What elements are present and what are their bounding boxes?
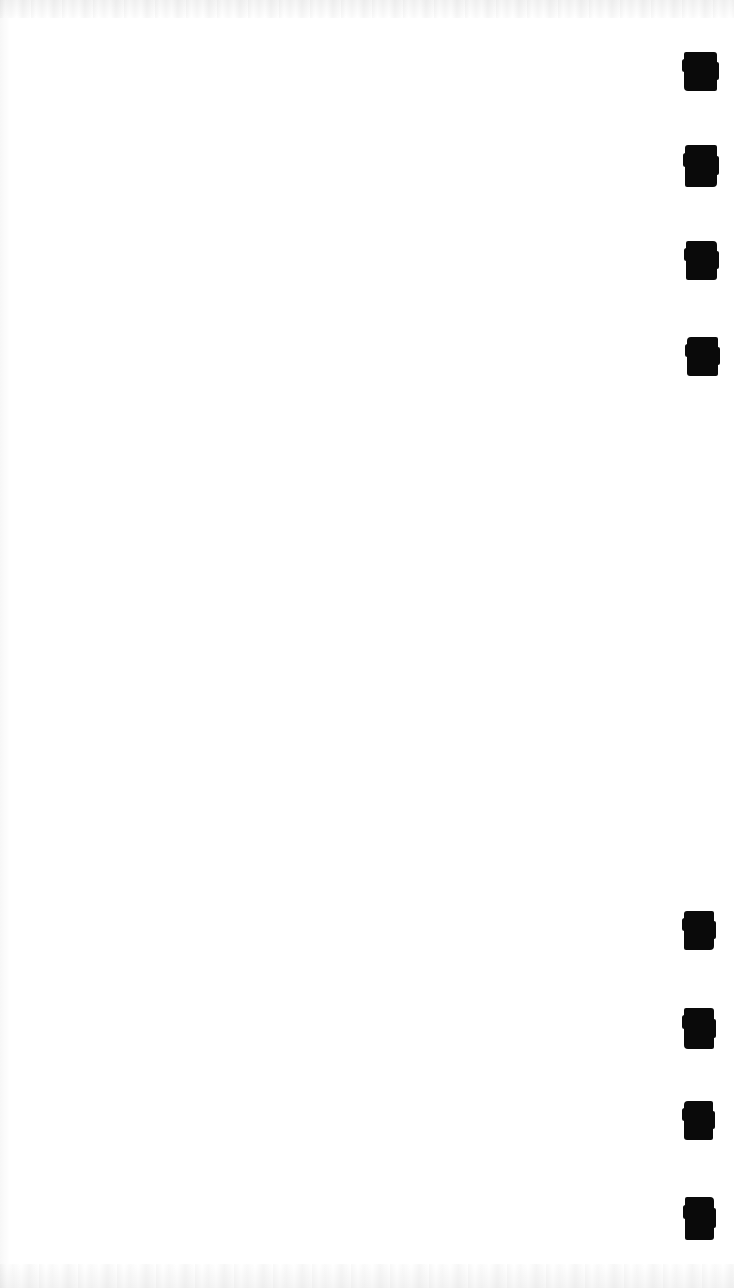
- scanned-page: [0, 0, 734, 1288]
- redaction-mark: [686, 241, 717, 280]
- redaction-mark: [685, 145, 717, 187]
- redaction-mark: [684, 911, 714, 950]
- redaction-mark: [687, 337, 718, 376]
- redaction-mark: [684, 52, 717, 91]
- redaction-mark-column: [0, 0, 734, 1288]
- redaction-mark: [684, 1008, 714, 1049]
- redaction-mark: [685, 1197, 714, 1240]
- redaction-mark: [684, 1101, 713, 1140]
